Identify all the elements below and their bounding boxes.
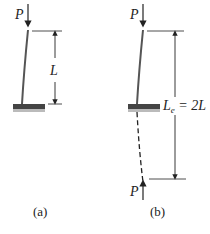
load-label: P (14, 7, 24, 22)
diagram-svg: P L (a) P P Le = 2L (b) (0, 0, 210, 234)
column (22, 30, 28, 104)
top-load-label: P (129, 7, 139, 22)
length-label: L (49, 63, 58, 78)
column-buckling-diagram: P L (a) P P Le = 2L (b) (0, 0, 210, 234)
base-hatch (13, 109, 45, 112)
bottom-load-label: P (129, 184, 139, 199)
caption-a: (a) (33, 204, 47, 219)
fixed-base (13, 104, 45, 109)
figure-b: P P Le = 2L (b) (128, 4, 206, 219)
base-hatch (128, 109, 160, 112)
mirrored-column-dashed (137, 112, 143, 182)
effective-length-label: Le = 2L (162, 98, 206, 115)
figure-a: P L (a) (13, 4, 62, 219)
fixed-base (128, 104, 160, 109)
caption-b: (b) (150, 204, 165, 219)
column (137, 30, 143, 104)
